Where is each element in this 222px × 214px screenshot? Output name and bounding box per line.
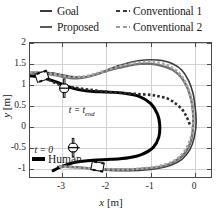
line-solid-black-icon bbox=[32, 157, 45, 160]
legend-row-1: Goal Conventional 1 bbox=[26, 3, 216, 19]
y-tick-label: -1 bbox=[0, 163, 26, 173]
line-solid-gray-icon bbox=[40, 21, 55, 33]
legend-item-proposed: Proposed bbox=[26, 19, 116, 35]
plot-area: t = tend t = 0 Human bbox=[29, 42, 212, 178]
y-tick-label: 0 bbox=[0, 121, 26, 131]
y-tick-label: -0.5 bbox=[0, 142, 26, 152]
x-axis-title: x [m] bbox=[0, 196, 222, 208]
legend-label-goal: Goal bbox=[57, 5, 79, 17]
y-tick-label: 1 bbox=[0, 79, 26, 89]
legend-item-conventional-2: Conventional 2 bbox=[116, 19, 216, 35]
annotation-t-end: t = tend bbox=[69, 105, 95, 117]
line-dashed-gray-icon bbox=[116, 21, 131, 33]
human-icon bbox=[59, 79, 71, 97]
x-tick-label: -1 bbox=[135, 181, 165, 191]
vehicle-icon bbox=[91, 160, 105, 172]
legend: Goal Conventional 1 Proposed Conventiona… bbox=[26, 2, 216, 38]
x-tick-label: -3 bbox=[46, 181, 76, 191]
figure-root: Goal Conventional 1 Proposed Conventiona… bbox=[0, 0, 222, 214]
legend-label-human: Human bbox=[48, 153, 82, 165]
legend-item-conventional-1: Conventional 1 bbox=[116, 3, 216, 19]
y-tick-label: 1.5 bbox=[0, 58, 26, 68]
legend-label-proposed: Proposed bbox=[57, 21, 99, 33]
legend-label-conventional-2: Conventional 2 bbox=[133, 21, 202, 33]
line-dashed-dark-icon bbox=[116, 5, 131, 17]
y-tick-label: 2 bbox=[0, 37, 26, 47]
legend-item-goal: Goal bbox=[26, 3, 116, 19]
legend-item-human: Human bbox=[32, 153, 82, 165]
legend-row-2: Proposed Conventional 2 bbox=[26, 19, 216, 35]
y-tick-label: 0.5 bbox=[0, 100, 26, 110]
x-tick-label: -2 bbox=[90, 181, 120, 191]
line-solid-dark-icon bbox=[40, 5, 55, 17]
y-axis-symbol: y bbox=[0, 113, 12, 118]
x-tick-label: 0 bbox=[179, 181, 209, 191]
x-axis-unit: [m] bbox=[107, 196, 123, 208]
legend-label-conventional-1: Conventional 1 bbox=[133, 5, 202, 17]
